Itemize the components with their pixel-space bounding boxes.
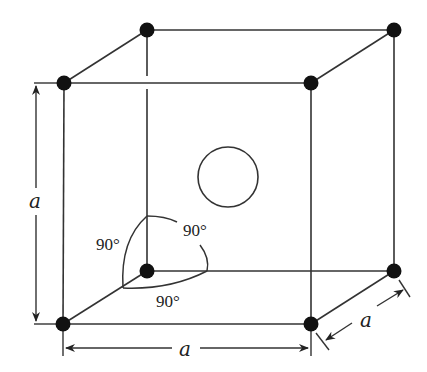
cube-edges xyxy=(63,30,394,324)
dim-depth-arrow-front xyxy=(326,323,352,340)
label-angle-bottom: 90° xyxy=(156,292,180,311)
atom-back-top-right xyxy=(387,23,402,38)
atom-front-top-left xyxy=(57,76,72,91)
angle-arc-right-lower xyxy=(200,245,208,271)
atom-front-top-right xyxy=(304,76,319,91)
label-width-a: a xyxy=(179,337,191,361)
dim-depth-ext-back xyxy=(399,280,410,297)
corner-atoms xyxy=(56,23,402,332)
depth-edge-top-left xyxy=(64,30,147,83)
angle-arc-bottom xyxy=(123,271,207,288)
label-angle-left: 90° xyxy=(96,235,120,254)
depth-edge-bottom-left xyxy=(63,271,147,324)
atom-back-bottom-right xyxy=(387,264,402,279)
dim-depth-ext-front xyxy=(316,333,329,350)
diagram-canvas: a a a 90° 90° 90° xyxy=(0,0,427,372)
dimensions xyxy=(34,83,410,356)
label-height-a: a xyxy=(29,189,41,213)
atom-back-top-left xyxy=(140,23,155,38)
depth-edge-bottom-right xyxy=(311,271,394,324)
dim-depth-arrow-back xyxy=(377,290,403,306)
atom-front-bottom-left xyxy=(56,317,71,332)
angle-arc-right-upper xyxy=(147,216,177,222)
body-center-atom xyxy=(198,147,258,207)
bcc-unit-cell-diagram: a a a 90° 90° 90° xyxy=(0,0,427,372)
label-angle-right: 90° xyxy=(183,221,207,240)
label-depth-a: a xyxy=(360,308,372,332)
front-left-edge xyxy=(63,83,64,324)
depth-edge-top-right xyxy=(311,30,394,83)
atom-back-bottom-left xyxy=(140,264,155,279)
atom-front-bottom-right xyxy=(304,317,319,332)
